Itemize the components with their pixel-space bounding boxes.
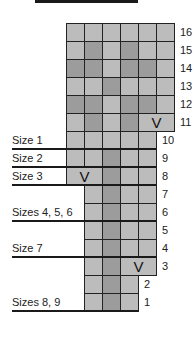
dark-stitch-cell: [120, 95, 139, 114]
row-number: 12: [180, 95, 192, 113]
dark-stitch-cell: [120, 59, 139, 78]
size-label: Sizes 4, 5, 6: [12, 205, 73, 219]
light-stitch-cell: [66, 77, 85, 96]
decrease-symbol: V: [139, 114, 174, 131]
dark-stitch-cell: [66, 95, 85, 114]
light-stitch-cell: [138, 41, 157, 60]
decrease-cell: V: [120, 257, 157, 276]
row-number: 10: [162, 131, 174, 149]
light-stitch-cell: [120, 77, 139, 96]
dark-stitch-cell: [120, 113, 139, 132]
light-stitch-cell: [138, 185, 157, 204]
light-stitch-cell: [156, 77, 175, 96]
light-stitch-cell: [120, 221, 139, 240]
size-label: Size 3: [12, 169, 43, 183]
decrease-cell: V: [138, 113, 175, 132]
light-stitch-cell: [120, 275, 139, 294]
light-stitch-cell: [84, 77, 103, 96]
row-number: 2: [144, 275, 150, 293]
light-stitch-cell: [138, 23, 157, 42]
dark-stitch-cell: [120, 41, 139, 60]
dark-stitch-cell: [84, 113, 103, 132]
size-line: [12, 310, 138, 312]
size-label: Size 2: [12, 151, 43, 165]
light-stitch-cell: [84, 275, 103, 294]
dark-stitch-cell: [84, 41, 103, 60]
light-stitch-cell: [120, 23, 139, 42]
light-stitch-cell: [84, 221, 103, 240]
row-number: 14: [180, 59, 192, 77]
size-label: Size 7: [12, 241, 43, 255]
light-stitch-cell: [156, 23, 175, 42]
dark-stitch-cell: [138, 59, 157, 78]
light-stitch-cell: [120, 185, 139, 204]
light-stitch-cell: [102, 95, 121, 114]
row-number: 11: [180, 113, 191, 131]
row-number: 7: [162, 185, 168, 203]
decrease-symbol: V: [121, 258, 156, 275]
light-stitch-cell: [66, 41, 85, 60]
light-stitch-cell: [156, 95, 175, 114]
dark-stitch-cell: [84, 95, 103, 114]
row-number: 6: [162, 203, 168, 221]
light-stitch-cell: [156, 59, 175, 78]
light-stitch-cell: [102, 113, 121, 132]
light-stitch-cell: [138, 77, 157, 96]
dark-stitch-cell: [138, 95, 157, 114]
light-stitch-cell: [84, 23, 103, 42]
row-number: 1: [144, 293, 150, 311]
row-number: 4: [162, 239, 168, 257]
dark-stitch-cell: [102, 221, 121, 240]
size-line: [12, 166, 156, 168]
size-line: [12, 148, 156, 150]
size-label: Sizes 8, 9: [12, 295, 60, 309]
row-number: 3: [162, 257, 168, 275]
row-number: 9: [162, 149, 168, 167]
light-stitch-cell: [84, 257, 103, 276]
light-stitch-cell: [84, 185, 103, 204]
decrease-symbol: V: [67, 168, 102, 185]
light-stitch-cell: [138, 221, 157, 240]
knitting-chart: 1615141312V11109V87654V321Size 1Size 2Si…: [0, 0, 194, 338]
dark-stitch-cell: [102, 77, 121, 96]
row-number: 15: [180, 41, 192, 59]
dark-stitch-cell: [102, 275, 121, 294]
light-stitch-cell: [66, 113, 85, 132]
size-line: [12, 184, 156, 186]
row-number: 8: [162, 167, 168, 185]
dark-stitch-cell: [84, 59, 103, 78]
dark-stitch-cell: [102, 257, 121, 276]
row-number: 16: [180, 23, 192, 41]
size-label: Size 1: [12, 133, 43, 147]
size-line: [12, 256, 156, 258]
light-stitch-cell: [66, 23, 85, 42]
dark-stitch-cell: [102, 185, 121, 204]
row-number: 5: [162, 221, 168, 239]
row-number: 13: [180, 77, 192, 95]
light-stitch-cell: [102, 41, 121, 60]
size-line: [12, 220, 156, 222]
dark-stitch-cell: [66, 59, 85, 78]
light-stitch-cell: [102, 59, 121, 78]
light-stitch-cell: [156, 41, 175, 60]
light-stitch-cell: [102, 23, 121, 42]
